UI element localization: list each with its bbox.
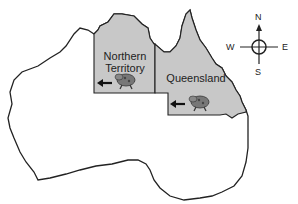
northern-territory-line2: Territory: [96, 62, 154, 74]
northern-territory-label: Northern Territory: [96, 50, 154, 74]
compass-west-label: W: [226, 42, 235, 52]
northern-territory-line1: Northern: [96, 50, 154, 62]
compass-east-label: E: [282, 42, 288, 52]
australia-map: [0, 0, 298, 204]
queensland-label: Queensland: [160, 72, 232, 84]
compass-north-label: N: [255, 12, 262, 22]
compass-south-label: S: [255, 67, 261, 77]
compass-rose-icon: [240, 24, 278, 64]
